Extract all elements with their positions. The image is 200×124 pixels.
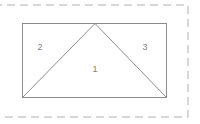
region-label-left: 2: [37, 42, 42, 52]
outer-rectangle-shape[interactable]: [23, 24, 167, 98]
geometry-figure: 2 1 3: [0, 0, 200, 124]
figure-canvas: 2 1 3: [0, 0, 200, 124]
dashed-selection-border[interactable]: [0, 5, 188, 117]
region-label-right: 3: [142, 42, 147, 52]
region-label-center: 1: [92, 64, 97, 74]
triangle-right-leg-line[interactable]: [95, 24, 167, 98]
triangle-left-leg-line[interactable]: [23, 24, 96, 98]
